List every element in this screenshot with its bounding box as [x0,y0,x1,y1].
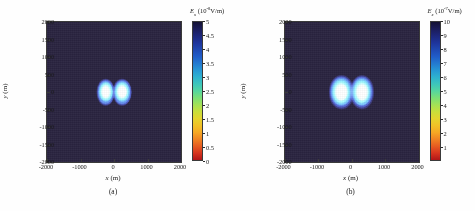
x-axis-tick [148,159,149,162]
field-map [47,22,181,162]
colorbar-title: Ex (10-8V/m) [190,6,224,17]
colorbar-gradient [192,21,203,161]
x-axis-tick-label: 1000 [140,163,152,170]
plot-area [46,21,182,163]
colorbar-tick [441,147,443,148]
colorbar-tick-label: 5 [444,88,447,95]
colorbar-tick [441,91,443,92]
y-axis-title: y (m) [1,84,9,99]
colorbar-tick [203,133,205,134]
y-axis-tick-label: -500 [280,105,291,112]
field-contour-ring [361,91,363,94]
figure-container: 2000150010005000-500-1000-1500-2000-2000… [0,0,475,211]
colorbar-tick-label: 3.5 [206,60,214,67]
panel-caption: (b) [346,187,355,196]
y-axis-tick-label: 1500 [279,35,291,42]
colorbar-tick [203,35,205,36]
x-axis-tick-label: 2000 [174,163,186,170]
x-axis-tick [318,159,319,162]
y-axis-tick-label: 1000 [279,53,291,60]
x-axis-tick-label: -2000 [39,163,53,170]
y-axis-tick-label: 2000 [279,18,291,25]
colorbar-tick [203,147,205,148]
colorbar-tick [203,77,205,78]
colorbar: 10987654321 [430,21,441,161]
colorbar-tick [441,77,443,78]
x-axis-tick [419,159,420,162]
colorbar-tick-label: 8 [444,46,447,53]
panel-b: 2000150010005000-500-1000-1500-2000-2000… [238,0,475,211]
colorbar-tick-label: 0 [206,158,209,165]
colorbar-tick [203,161,205,162]
colorbar-tick-label: 1.5 [206,116,214,123]
colorbar-tick-label: 6 [444,74,447,81]
colorbar-tick-label: 2.5 [206,88,214,95]
colorbar-tick [441,49,443,50]
y-axis-tick-label: -1000 [277,123,291,130]
x-axis-tick-label: -1000 [310,163,324,170]
colorbar-tick [441,21,443,22]
colorbar-tick [441,35,443,36]
x-axis-title: x (m) [106,174,121,182]
colorbar-tick [441,119,443,120]
colorbar-tick [203,91,205,92]
y-axis-tick-label: 0 [288,88,291,95]
colorbar-tick-label: 3 [206,74,209,81]
y-axis-tick-label: -500 [43,105,54,112]
y-axis-tick [47,92,50,93]
colorbar-tick [203,63,205,64]
colorbar-tick [203,49,205,50]
colorbar-title: Ex (10-7V/m) [428,6,462,17]
x-axis-tick [114,159,115,162]
y-axis-tick-label: -1000 [40,123,54,130]
x-axis-title: x (m) [343,174,358,182]
x-axis-tick-label: 2000 [411,163,423,170]
colorbar-tick [203,105,205,106]
y-axis-tick-label: -1500 [277,140,291,147]
colorbar-tick-label: 5 [206,18,209,25]
colorbar-tick-label: 4 [444,102,447,109]
colorbar-tick-label: 2 [206,102,209,109]
x-axis-tick-label: -2000 [276,163,290,170]
colorbar-tick-label: 1 [444,144,447,151]
colorbar-tick [203,21,205,22]
y-axis-tick-label: 2000 [42,18,54,25]
x-axis-tick [181,159,182,162]
y-axis-tick-label: 500 [45,70,54,77]
y-axis-tick-label: 1500 [42,35,54,42]
y-axis-tick-label: 500 [282,70,291,77]
x-axis-tick-label: 0 [349,163,352,170]
colorbar-tick-label: 4.5 [206,32,214,39]
colorbar-tick-label: 1 [206,130,209,137]
colorbar-tick-label: 7 [444,60,447,67]
colorbar-tick-label: 3 [444,116,447,123]
y-axis-tick-label: 1000 [42,53,54,60]
colorbar: 54.543.532.521.510.50 [192,21,203,161]
y-axis-title: y (m) [239,84,247,99]
y-axis-tick-label: -1500 [40,140,54,147]
colorbar-gradient [430,21,441,161]
x-axis-tick [385,159,386,162]
x-axis-tick [81,159,82,162]
field-map [285,22,419,162]
colorbar-tick-label: 10 [444,18,450,25]
x-axis-tick-label: 1000 [378,163,390,170]
colorbar-tick [441,133,443,134]
field-contour-ring [341,91,343,94]
colorbar-tick [203,119,205,120]
x-axis-tick-label: 0 [111,163,114,170]
y-axis-tick [285,92,288,93]
panel-a: 2000150010005000-500-1000-1500-2000-2000… [0,0,238,211]
x-axis-tick-label: -1000 [72,163,86,170]
colorbar-tick [441,105,443,106]
y-axis-tick-label: 0 [51,88,54,95]
plot-area [284,21,420,163]
colorbar-tick-label: 4 [206,46,209,53]
x-axis-tick [352,159,353,162]
colorbar-tick [441,63,443,64]
colorbar-tick-label: 0.5 [206,144,214,151]
colorbar-tick-label: 2 [444,130,447,137]
panel-caption: (a) [109,187,117,196]
colorbar-tick-label: 9 [444,32,447,39]
